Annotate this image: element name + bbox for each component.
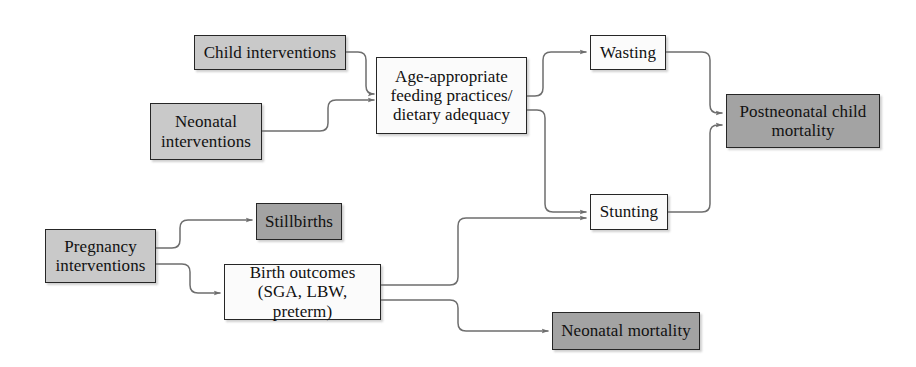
node-label-stunting: Stunting [596,202,662,221]
node-label-stillbirths: Stillbirths [261,212,337,231]
edge-pregnancy-to-birth [156,264,220,293]
node-label-neonatal-mortality: Neonatal mortality [557,321,695,340]
connector-layer [0,0,916,367]
edge-pregnancy-to-stillbirths [156,220,252,248]
edge-feeding-to-stunting [527,110,586,212]
edge-child-to-feeding [346,52,374,94]
node-label-postneonatal-child-mortality: Postneonatal child mortality [736,102,871,140]
node-label-birth-outcomes: Birth outcomes (SGA, LBW, preterm) [225,263,380,320]
node-label-neonatal-interventions: Neonatal interventions [157,112,255,150]
flowchart-canvas: Child interventionsNeonatal intervention… [0,0,916,367]
node-wasting[interactable]: Wasting [590,35,666,70]
node-neonatal-interventions[interactable]: Neonatal interventions [150,103,262,160]
node-label-child-interventions: Child interventions [200,43,341,62]
node-neonatal-mortality[interactable]: Neonatal mortality [552,312,700,350]
node-label-pregnancy-interventions: Pregnancy interventions [51,237,149,275]
node-stunting[interactable]: Stunting [590,194,668,230]
node-stillbirths[interactable]: Stillbirths [256,203,342,240]
node-label-feeding-practices: Age-appropriate feeding practices/ dieta… [386,67,516,124]
node-feeding-practices[interactable]: Age-appropriate feeding practices/ dieta… [376,57,527,134]
edge-feeding-to-wasting [527,52,586,96]
edge-wasting-to-postneonatal [666,52,722,113]
edge-birth-to-neonatal [381,300,548,331]
node-postneonatal-child-mortality[interactable]: Postneonatal child mortality [726,94,880,148]
edge-stunting-to-postneonatal [668,125,722,212]
edge-birth-to-stunting [381,218,586,285]
node-birth-outcomes[interactable]: Birth outcomes (SGA, LBW, preterm) [224,264,381,320]
node-pregnancy-interventions[interactable]: Pregnancy interventions [45,229,156,283]
node-child-interventions[interactable]: Child interventions [194,35,346,70]
node-label-wasting: Wasting [596,43,660,62]
edge-neonatal-to-feeding [262,100,374,131]
